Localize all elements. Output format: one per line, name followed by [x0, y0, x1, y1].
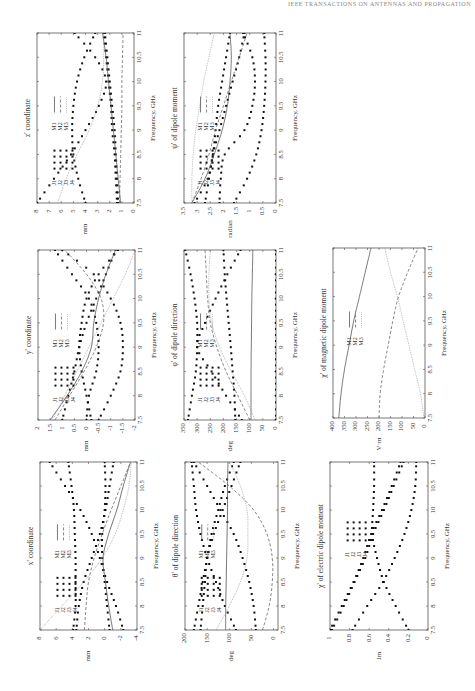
series-J3-point — [264, 56, 266, 58]
series-J2-point — [86, 50, 88, 52]
x-tick-label: 9.5 — [429, 530, 436, 538]
series-J4-point — [395, 605, 397, 607]
series-J1-point — [334, 619, 336, 621]
series-J2-point — [75, 581, 77, 583]
series-J4-point — [381, 575, 383, 577]
series-J4-point — [116, 178, 118, 180]
series-J2-point — [200, 629, 202, 631]
series-J2-point — [74, 545, 76, 547]
series-J4-point — [220, 172, 222, 174]
series-J1-point — [224, 485, 226, 487]
series-J2-point — [213, 147, 215, 149]
series-J3-point — [378, 587, 380, 589]
series-J3-point — [104, 472, 106, 474]
legend-label: J4 — [215, 397, 221, 402]
series-J1-point — [233, 461, 235, 463]
series-J2-point — [81, 191, 83, 193]
series-J1-point — [90, 310, 92, 312]
series-J2-point — [89, 43, 91, 45]
series-J1-point — [194, 304, 196, 306]
series-J1-point — [360, 563, 362, 565]
series-J2-point — [340, 612, 342, 614]
series-J1-point — [187, 260, 189, 262]
series-J2-point — [239, 461, 241, 463]
series-J2-point — [77, 178, 79, 180]
series-J1-point — [214, 521, 216, 523]
y-tick-label: 0 — [420, 424, 427, 427]
series-J4-point — [247, 43, 249, 45]
series-J2-point — [74, 93, 76, 95]
series-J1-point — [196, 198, 198, 200]
y-tick-label: 250 — [363, 421, 370, 431]
series-J4-point — [215, 581, 217, 583]
series-J4-point — [84, 389, 86, 391]
series-J3-point — [234, 419, 236, 421]
series-J1-point — [194, 377, 196, 379]
series-J1-point — [219, 93, 221, 95]
series-J3-point — [104, 461, 106, 463]
series-J1-point — [82, 334, 84, 336]
series-J4-point — [76, 503, 78, 505]
series-J4-point — [372, 515, 374, 517]
series-J4-point — [112, 117, 114, 119]
y-tick-label: -0.5 — [94, 423, 101, 433]
series-J3-point — [366, 605, 368, 607]
series-J1-point — [196, 316, 198, 318]
series-J3-point — [113, 389, 115, 391]
series-J2-point — [209, 172, 211, 174]
series-J4-point — [244, 36, 246, 38]
chart-title: x' coordinate — [26, 526, 35, 565]
series-J3-point — [261, 123, 263, 125]
series-J2-point — [222, 117, 224, 119]
x-tick-label: 7.5 — [136, 416, 143, 424]
series-J1-point — [99, 533, 101, 535]
y-axis-label: V·m — [375, 437, 383, 450]
series-J1-point — [94, 56, 96, 58]
y-tick-label: 0.5 — [70, 424, 77, 432]
series-J1-point — [216, 515, 218, 517]
series-J2-point — [76, 172, 78, 174]
series-J4-point — [275, 389, 277, 391]
series-M3-line — [216, 462, 248, 630]
series-J4-point — [82, 377, 84, 379]
series-J4-point — [81, 322, 83, 324]
series-J1-point — [220, 497, 222, 499]
series-J2-point — [88, 298, 90, 300]
series-J3-point — [122, 346, 124, 348]
series-J4-point — [233, 141, 235, 143]
legend-label: M3 — [66, 550, 72, 558]
x-tick-label: 8.5 — [429, 578, 436, 586]
series-J4-point — [371, 521, 373, 523]
series-J4-point — [86, 521, 88, 523]
series-J3-point — [113, 304, 115, 306]
series-J2-point — [231, 485, 233, 487]
series-J3-point — [85, 267, 87, 269]
series-J3-point — [233, 395, 235, 397]
series-J1-point — [98, 62, 100, 64]
series-J2-point — [240, 249, 242, 251]
series-J1-point — [220, 87, 222, 89]
series-J3-point — [203, 478, 205, 480]
series-J2-point — [234, 260, 236, 262]
series-J2-point — [70, 478, 72, 480]
x-tick-label: 10 — [136, 295, 143, 302]
y-tick-label: 2.5 — [206, 207, 213, 215]
x-tick-label: 9 — [279, 556, 286, 559]
y-tick-label: -2 — [130, 425, 137, 430]
y-tick-label: 3.5 — [179, 207, 186, 215]
series-J1-point — [88, 316, 90, 318]
y-tick-label: 150 — [203, 633, 210, 643]
y-tick-label: 200 — [219, 423, 226, 433]
series-J3-point — [231, 364, 233, 366]
series-J4-point — [79, 509, 81, 511]
series-J2-point — [241, 419, 243, 421]
x-axis-label: Frequency, GHz — [291, 312, 299, 358]
series-J3-point — [264, 50, 266, 52]
series-J3-point — [242, 557, 244, 559]
y-tick-label: 0.8 — [345, 634, 352, 642]
x-tick-label: 7.5 — [429, 626, 436, 634]
series-M2-line — [120, 33, 124, 203]
series-J2-point — [203, 593, 205, 595]
series-J4-point — [194, 497, 196, 499]
y-tick-label: 200 — [374, 421, 381, 431]
